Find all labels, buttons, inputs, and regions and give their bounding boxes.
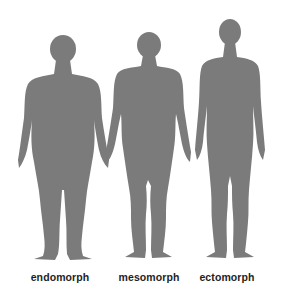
endomorph-silhouette bbox=[18, 35, 109, 260]
mesomorph-silhouette bbox=[106, 32, 191, 258]
label-mesomorph: mesomorph bbox=[119, 271, 180, 283]
label-ectomorph: ectomorph bbox=[199, 271, 254, 283]
body-types-illustration bbox=[0, 0, 281, 294]
label-endomorph: endomorph bbox=[31, 271, 90, 283]
ectomorph-silhouette bbox=[195, 19, 265, 258]
